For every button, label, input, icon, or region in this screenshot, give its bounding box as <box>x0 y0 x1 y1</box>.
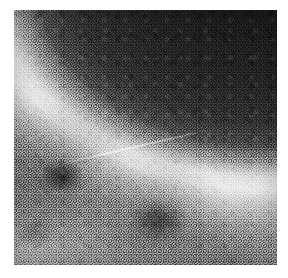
page-canvas <box>0 0 288 278</box>
micrograph-image <box>14 10 277 265</box>
figure-caption <box>14 268 277 276</box>
plate-vignette <box>14 10 277 265</box>
